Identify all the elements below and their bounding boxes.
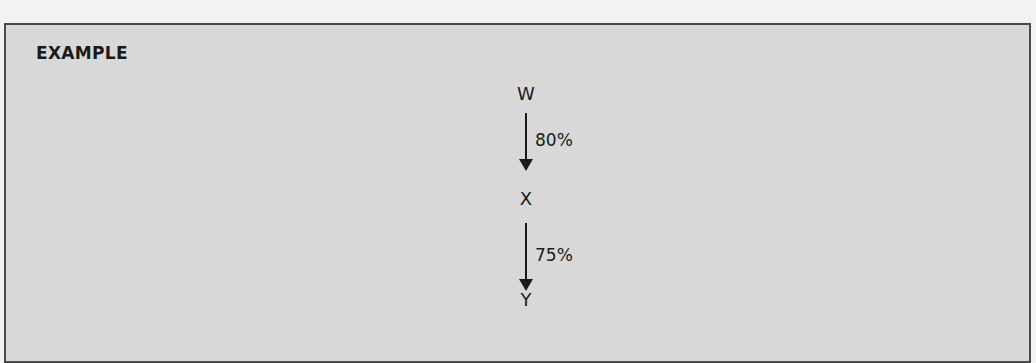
arrow-x-to-y — [525, 223, 527, 287]
node-y: Y — [506, 289, 546, 310]
node-x: X — [506, 188, 546, 209]
arrow-w-to-x — [525, 113, 527, 167]
panel-title: EXAMPLE — [36, 43, 128, 63]
edge-label-w-x: 80% — [535, 130, 573, 150]
node-w: W — [506, 83, 546, 104]
edge-label-x-y: 75% — [535, 245, 573, 265]
example-panel: EXAMPLE W 80% X 75% Y — [4, 23, 1031, 363]
